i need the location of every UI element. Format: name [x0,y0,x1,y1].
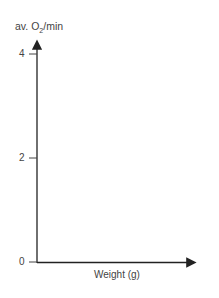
x-axis-label: Weight (g) [94,269,140,280]
y-tick-label-0: 0 [19,256,25,267]
y-tick-label-2: 2 [19,152,25,163]
chart-axes [0,0,219,298]
y-tick-label-4: 4 [19,48,25,59]
y-axis-label: av. O2/min [15,20,63,34]
